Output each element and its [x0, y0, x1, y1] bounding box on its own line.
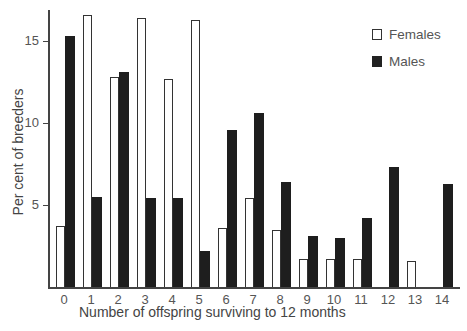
legend-label-females: Females — [389, 27, 441, 42]
y-tick-label: 15 — [15, 33, 39, 48]
bar-chart: 51015 01234567891011121314 Per cent of b… — [0, 0, 467, 331]
bar-males-11 — [362, 218, 372, 287]
legend-item-males: Males — [372, 54, 425, 69]
x-tick-label: 14 — [432, 292, 452, 307]
bar-females-2 — [110, 77, 119, 287]
y-axis — [48, 10, 50, 288]
y-tick — [43, 205, 48, 206]
bar-females-9 — [299, 259, 308, 287]
x-axis — [48, 287, 460, 289]
bar-males-3 — [146, 198, 156, 287]
x-tick-label: 13 — [405, 292, 425, 307]
legend-label-males: Males — [389, 54, 425, 69]
bar-males-4 — [173, 198, 183, 287]
bar-females-1 — [83, 15, 92, 287]
legend-swatch-females — [372, 29, 382, 40]
bar-females-13 — [407, 261, 416, 287]
bar-females-7 — [245, 198, 254, 287]
bar-males-10 — [335, 238, 345, 287]
legend-swatch-males — [372, 56, 382, 67]
bar-males-9 — [308, 236, 318, 287]
bar-males-14 — [443, 184, 453, 287]
y-axis-label: Per cent of breeders — [10, 82, 26, 222]
bar-males-1 — [92, 197, 102, 287]
bar-males-0 — [65, 36, 75, 287]
bar-females-8 — [272, 230, 281, 287]
x-tick-label: 0 — [54, 292, 74, 307]
bar-females-3 — [137, 18, 146, 287]
bar-females-5 — [191, 20, 200, 287]
bar-males-6 — [227, 130, 237, 287]
bar-females-6 — [218, 228, 227, 287]
x-tick-label: 11 — [351, 292, 371, 307]
bar-males-2 — [119, 72, 129, 287]
y-tick — [43, 123, 48, 124]
bar-males-12 — [389, 167, 399, 287]
bar-females-10 — [326, 259, 335, 287]
bar-males-5 — [200, 251, 210, 287]
bar-males-7 — [254, 113, 264, 287]
y-tick — [43, 41, 48, 42]
bar-females-4 — [164, 79, 173, 287]
bar-males-8 — [281, 182, 291, 287]
x-tick-label: 12 — [378, 292, 398, 307]
x-axis-label: Number of offspring surviving to 12 mont… — [79, 304, 346, 320]
bar-females-0 — [56, 226, 65, 287]
bar-females-11 — [353, 259, 362, 287]
legend-item-females: Females — [372, 27, 441, 42]
